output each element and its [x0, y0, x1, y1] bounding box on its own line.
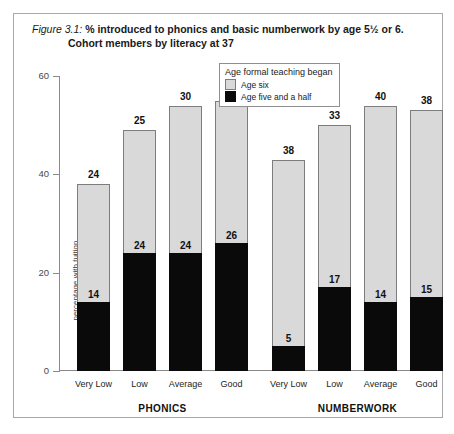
- bar-segment-age-five-and-a-half[interactable]: [364, 302, 397, 371]
- bar-segment-age-six[interactable]: [364, 106, 397, 303]
- bar-segment-age-six[interactable]: [123, 130, 156, 253]
- bar-segment-age-five-and-a-half[interactable]: [123, 253, 156, 371]
- bar-value-label-age-five-and-a-half: 26: [209, 230, 254, 241]
- bar-segment-age-five-and-a-half[interactable]: [272, 346, 305, 371]
- figure-title-line-1: % introduced to phonics and basic number…: [85, 23, 404, 35]
- legend-title: Age formal teaching began: [225, 67, 334, 77]
- legend-item-age-five-and-a-half: Age five and a half: [225, 91, 334, 102]
- bar-stack[interactable]: [410, 110, 443, 371]
- bar-segment-age-six[interactable]: [272, 160, 305, 347]
- bar-segment-age-six[interactable]: [318, 125, 351, 287]
- bar-value-label-age-six: 30: [163, 91, 208, 102]
- y-tick-label: 60: [28, 70, 49, 81]
- legend-label-age-five-and-a-half: Age five and a half: [241, 92, 311, 102]
- bar-value-label-age-five-and-a-half: 17: [312, 274, 357, 285]
- legend-swatch-icon-age-five-and-a-half: [225, 91, 236, 102]
- bar-segment-age-six[interactable]: [215, 101, 248, 244]
- bar-segment-age-five-and-a-half[interactable]: [77, 302, 110, 371]
- y-tick-label: 20: [28, 267, 49, 278]
- y-tick-label: 40: [28, 168, 49, 179]
- y-tick-mark: [53, 371, 60, 372]
- bar-value-label-age-five-and-a-half: 15: [404, 284, 449, 295]
- legend-item-age-six: Age six: [225, 79, 334, 90]
- y-tick-mark: [53, 174, 60, 175]
- figure-frame: Figure 3.1: % introduced to phonics and …: [13, 13, 443, 418]
- bar-value-label-age-five-and-a-half: 5: [266, 333, 311, 344]
- x-axis-category-label: Good: [202, 379, 262, 389]
- bar-stack[interactable]: [364, 106, 397, 372]
- bar-value-label-age-six: 38: [404, 95, 449, 106]
- bar-segment-age-five-and-a-half[interactable]: [318, 287, 351, 371]
- bar-value-label-age-five-and-a-half: 24: [117, 240, 162, 251]
- bar-value-label-age-five-and-a-half: 14: [71, 289, 116, 300]
- chart-legend: Age formal teaching began Age six Age fi…: [219, 63, 340, 107]
- bar-value-label-age-five-and-a-half: 24: [163, 240, 208, 251]
- bar-value-label-age-six: 24: [71, 169, 116, 180]
- figure-title: Figure 3.1: % introduced to phonics and …: [32, 22, 430, 50]
- plot-area: percentage with tuition 2414252430242926…: [59, 76, 434, 371]
- legend-swatch-icon-age-six: [225, 79, 236, 90]
- figure-number: Figure 3.1:: [32, 23, 82, 35]
- bar-segment-age-six[interactable]: [169, 106, 202, 254]
- bar-stack[interactable]: [169, 106, 202, 372]
- group-label: PHONICS: [83, 403, 243, 414]
- y-tick-label: 0: [28, 365, 49, 376]
- legend-label-age-six: Age six: [241, 80, 269, 90]
- bar-segment-age-six[interactable]: [77, 184, 110, 302]
- x-axis-category-label: Good: [397, 379, 454, 389]
- bar-value-label-age-six: 40: [358, 91, 403, 102]
- y-tick-mark: [53, 273, 60, 274]
- bar-value-label-age-five-and-a-half: 14: [358, 289, 403, 300]
- bar-value-label-age-six: 25: [117, 115, 162, 126]
- bar-stack[interactable]: [77, 184, 110, 371]
- bar-value-label-age-six: 38: [266, 145, 311, 156]
- bar-value-label-age-six: 33: [312, 110, 357, 121]
- bar-segment-age-five-and-a-half[interactable]: [169, 253, 202, 371]
- group-label: NUMBERWORK: [278, 403, 438, 414]
- bar-segment-age-five-and-a-half[interactable]: [215, 243, 248, 371]
- bar-stack[interactable]: [318, 125, 351, 371]
- y-tick-mark: [53, 76, 60, 77]
- bar-segment-age-five-and-a-half[interactable]: [410, 297, 443, 371]
- bar-segment-age-six[interactable]: [410, 110, 443, 297]
- figure-title-line-2: Cohort members by literacy at 37: [68, 36, 430, 50]
